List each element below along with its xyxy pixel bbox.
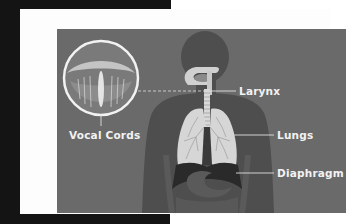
vocal-cords-inset xyxy=(64,41,138,115)
label-larynx: Larynx xyxy=(239,85,280,97)
label-diaphragm: Diaphragm xyxy=(277,167,344,179)
outer-background-bottom xyxy=(0,214,170,224)
respiratory-diagram xyxy=(57,29,346,213)
image-frame: Vocal Cords Larynx Lungs Diaphragm xyxy=(20,9,330,214)
label-vocal-cords: Vocal Cords xyxy=(69,129,140,141)
outer-background-left xyxy=(0,0,20,224)
label-lungs: Lungs xyxy=(277,129,313,141)
diagram-panel: Vocal Cords Larynx Lungs Diaphragm xyxy=(57,29,346,213)
